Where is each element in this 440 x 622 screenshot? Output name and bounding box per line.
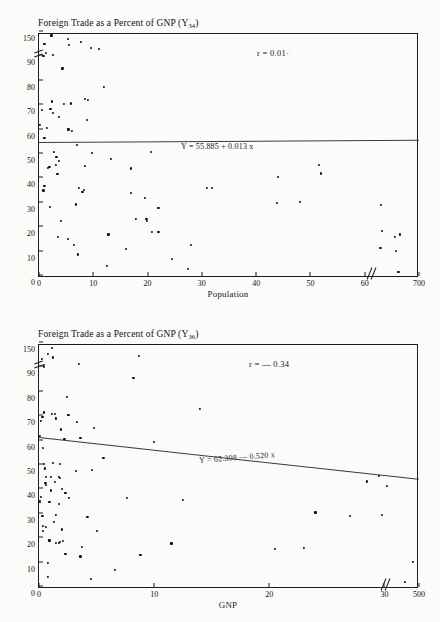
data-point: [132, 377, 134, 379]
plot-title-1: Foreign Trade as a Percent of GNP (Y34): [38, 18, 199, 28]
data-point: [211, 187, 213, 189]
x-axis-tick: [310, 272, 311, 276]
x-axis-tick-label: 0: [37, 279, 41, 288]
data-point: [130, 168, 132, 170]
x-axis-tick-label: 10: [150, 590, 158, 599]
data-point: [51, 100, 53, 102]
data-point: [412, 561, 414, 563]
data-point: [91, 469, 93, 471]
data-point: [171, 258, 173, 260]
data-point: [182, 499, 184, 501]
x-axis-tick: [147, 272, 148, 276]
data-point: [381, 230, 383, 232]
data-point: [66, 396, 68, 398]
data-point: [59, 463, 61, 465]
data-point: [378, 475, 380, 477]
scatter-figure-gnp: Foreign Trade as a Percent of GNP (Y36) …: [0, 311, 440, 622]
data-point: [91, 152, 93, 154]
data-point: [110, 158, 112, 160]
data-point: [50, 490, 52, 492]
data-point: [47, 562, 49, 564]
data-point: [78, 363, 80, 365]
data-point: [42, 190, 44, 192]
x-axis-tick-label: 700: [413, 279, 425, 288]
data-point: [79, 437, 81, 439]
data-point: [303, 547, 305, 549]
data-point: [42, 530, 44, 532]
data-point: [42, 447, 44, 449]
plot-frame-1: r = 0.01· Y = 55.885 + 0.013 x Populatio…: [38, 33, 418, 277]
data-point: [79, 555, 81, 557]
data-point: [75, 203, 77, 205]
y-axis-tick: [39, 488, 43, 489]
data-point: [53, 151, 55, 153]
y-axis-tick: [39, 586, 43, 587]
data-point: [397, 271, 399, 273]
data-point: [80, 41, 82, 43]
data-point: [320, 172, 322, 174]
y-axis-tick: [39, 31, 43, 32]
x-axis-tick: [93, 272, 94, 276]
data-point: [48, 501, 50, 503]
data-point: [76, 421, 78, 423]
data-point: [75, 470, 77, 472]
y-axis-tick: [39, 153, 43, 154]
data-point: [47, 353, 49, 355]
x-axis-tick: [256, 272, 257, 276]
data-point: [44, 468, 46, 470]
data-point: [84, 165, 86, 167]
data-point: [41, 109, 43, 111]
data-point: [81, 546, 83, 548]
data-point: [57, 236, 59, 238]
x-axis-tick-label: 0: [37, 590, 41, 599]
data-point: [386, 485, 388, 487]
correlation-label-2: r = — 0.34: [249, 359, 289, 369]
plot-title-2: Foreign Trade as a Percent of GNP (Y36): [38, 329, 199, 339]
y-axis-tick: [39, 250, 43, 251]
data-point: [102, 457, 104, 459]
data-point: [86, 119, 88, 121]
data-point: [39, 501, 41, 503]
data-point: [206, 187, 208, 189]
x-axis-tick: [154, 583, 155, 587]
x-axis-tick-label: 500: [413, 590, 425, 599]
data-point: [125, 248, 127, 250]
data-point: [95, 530, 97, 532]
data-point: [45, 476, 47, 478]
plot-title-2-text: Foreign Trade as a Percent of GNP (Y: [38, 329, 188, 339]
data-point: [47, 576, 49, 578]
data-point: [43, 366, 45, 368]
y-axis-tick: [39, 226, 43, 227]
y-axis-tick: [39, 439, 43, 440]
data-point: [64, 553, 66, 555]
data-point: [51, 347, 53, 349]
x-axis-tick: [384, 583, 385, 587]
data-point: [54, 481, 56, 483]
data-point: [67, 38, 69, 40]
data-point: [89, 47, 91, 49]
y-axis-tick: [39, 128, 43, 129]
y-axis-tick: [39, 561, 43, 562]
data-point: [277, 176, 279, 178]
x-axis-tick-label: 30: [198, 279, 206, 288]
data-point: [187, 268, 189, 270]
regression-equation-1: Y = 55.885 + 0.013 x: [179, 142, 256, 151]
x-axis-tick: [39, 583, 40, 587]
data-point: [41, 416, 43, 418]
data-point: [48, 166, 50, 168]
data-point: [39, 124, 41, 126]
scatter-figure-population: Foreign Trade as a Percent of GNP (Y34) …: [0, 0, 440, 311]
data-point: [51, 413, 53, 415]
data-point: [404, 581, 406, 583]
x-axis-tick-label: 30: [380, 590, 388, 599]
data-point: [93, 427, 95, 429]
data-point: [59, 477, 61, 479]
data-point: [103, 86, 105, 88]
data-point: [106, 265, 108, 267]
data-point: [46, 127, 48, 129]
data-point: [349, 515, 351, 517]
data-point: [60, 429, 62, 431]
data-point: [379, 247, 381, 249]
data-point: [52, 357, 54, 359]
data-point: [57, 116, 59, 118]
